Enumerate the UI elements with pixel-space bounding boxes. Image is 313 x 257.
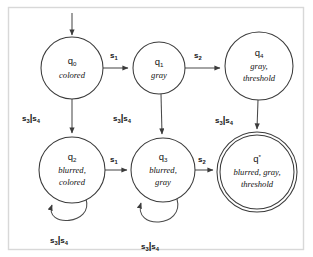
state-qstar-attr-0: blurred, gray, [233,167,280,177]
edge-q3-self-loop [140,199,178,222]
state-q4[interactable]: q4 gray, threshold [225,32,293,100]
edge-label-s34-loop-mid: s3|s4 [141,240,160,252]
state-q4-attr-0: gray, [250,61,267,71]
edge-label-s34-right: s3|s4 [215,114,234,126]
edge-label-s34-loop-left: s3|s4 [50,234,69,246]
figure-frame: q0 colored q1 gray q4 gray, threshold q2 [0,0,313,257]
state-q3-attr-0: blurred, [149,165,177,175]
state-machine-diagram: q0 colored q1 gray q4 gray, threshold q2 [0,0,313,257]
edge-label-s2-bottom: s2 [198,155,206,165]
edge-label-s34-mid: s3|s4 [113,112,132,124]
state-q1[interactable]: q1 gray [133,42,185,94]
state-q2-attr-1: colored [59,177,86,187]
edge-q1-q3 [161,94,162,134]
edge-label-s34-left: s3|s4 [22,112,41,124]
edge-label-s2-top: s2 [194,51,202,61]
state-qstar[interactable]: q* blurred, gray, threshold [217,132,297,212]
state-q3-attr-1: gray [155,177,171,187]
state-q3[interactable]: q3 blurred, gray [131,138,195,202]
state-q1-attr-0: gray [151,70,167,80]
state-q0-attr-0: colored [59,70,86,80]
state-q2-attr-0: blurred, [58,165,86,175]
state-q0-circle[interactable] [41,37,103,99]
state-q2[interactable]: q2 blurred, colored [39,137,105,203]
state-qstar-attr-1: threshold [241,179,274,189]
state-q0[interactable]: q0 colored [41,37,103,99]
edge-label-s1-bottom: s1 [110,155,118,165]
edge-q4-qstar [257,100,258,129]
edge-label-s1-top: s1 [110,51,118,61]
state-q4-attr-1: threshold [243,73,276,83]
